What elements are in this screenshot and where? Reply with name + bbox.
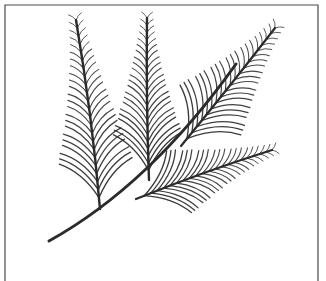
image-border-frame [0,0,326,281]
border-path [5,5,318,281]
frame-lines [5,5,318,281]
illustration-page: pinnate conifer branch with four fronds [0,0,326,281]
